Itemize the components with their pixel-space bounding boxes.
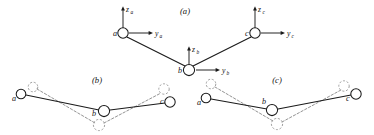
axis-z-a-subscript: a: [131, 9, 134, 15]
panel-c-ghost-bond-bc: [282, 90, 341, 122]
panel-a-caption: (a): [180, 6, 190, 16]
axis-z-a-arrowhead: [121, 6, 125, 10]
panel-b-ghost-bond-ab: [37, 89, 95, 123]
axis-y-a: y a: [129, 29, 162, 39]
panel-c-atom-a-label: a: [197, 98, 201, 107]
panel-a-atom-a: [118, 28, 128, 38]
axis-y-b: y b: [196, 66, 229, 76]
axis-z-b-subscript: b: [197, 49, 200, 55]
panel-c-atom-a: [201, 93, 211, 103]
panel-a-group: z a y a z b y b: [113, 5, 294, 76]
panel-b-bond-ab: [26, 95, 99, 110]
axis-y-c: y c: [261, 29, 294, 39]
panel-a-bond-ab: [127, 37, 185, 66]
panel-b-group: a b c (b): [12, 75, 175, 131]
axis-y-c-label: y: [286, 29, 291, 38]
panel-a-bond-bc: [193, 37, 251, 66]
axis-z-c-arrowhead: [253, 6, 257, 10]
axis-y-c-arrowhead: [281, 31, 285, 35]
panel-b-ghost-atom-b: [93, 119, 104, 130]
panel-c-atom-c: [351, 89, 361, 99]
axis-z-c-label: z: [257, 5, 261, 14]
panel-b-bond-bc: [110, 103, 165, 110]
panel-a-atom-c-label: c: [245, 29, 249, 38]
panel-c-atom-c-label: c: [346, 94, 350, 103]
panel-a-atom-b-label: b: [178, 66, 182, 75]
panel-b-ghost-atom-c: [159, 84, 169, 94]
panel-a-atom-c: [250, 28, 260, 38]
panel-b-ghost-atom-a: [28, 82, 38, 92]
axis-z-a: z a: [121, 5, 134, 28]
axis-y-c-subscript: c: [291, 33, 294, 39]
axis-y-a-subscript: a: [159, 33, 162, 39]
panel-c-atom-b: [266, 104, 277, 115]
panel-c-ghost-atom-b: [271, 118, 282, 129]
axis-y-a-label: y: [154, 29, 159, 38]
panel-b-atom-a-label: a: [12, 94, 16, 103]
panel-b-atom-a: [16, 89, 26, 99]
figure-canvas: z a y a z b y b: [0, 0, 374, 135]
panel-c-caption: (c): [272, 75, 282, 85]
panel-b-atom-b-label: b: [92, 109, 96, 118]
axis-y-a-arrowhead: [149, 31, 153, 35]
panel-b-ghost-bond-bc: [104, 93, 161, 123]
panel-c-bond-ab: [211, 99, 267, 109]
axis-z-c: z c: [253, 5, 266, 28]
panel-c-bond-bc: [278, 95, 351, 109]
axis-y-b-subscript: b: [226, 70, 229, 76]
figure-root: z a y a z b y b: [0, 0, 374, 135]
panel-b-atom-c-label: c: [160, 97, 164, 106]
panel-c-atom-b-label: b: [262, 97, 266, 106]
axis-z-b-label: z: [191, 45, 195, 54]
axis-z-c-subscript: c: [263, 9, 266, 15]
panel-a-atom-b: [183, 64, 194, 75]
axis-z-b-arrowhead: [187, 46, 191, 50]
axis-y-b-label: y: [221, 66, 226, 75]
panel-a-atom-a-label: a: [113, 29, 117, 38]
panel-b-atom-c: [165, 97, 175, 107]
panel-c-ghost-atom-a: [206, 79, 216, 89]
panel-c-ghost-atom-c: [339, 81, 349, 91]
panel-c-group: a b c (c): [197, 75, 361, 130]
axis-z-b: z b: [187, 45, 200, 64]
axis-z-a-label: z: [125, 5, 129, 14]
panel-b-atom-b: [98, 105, 109, 116]
panel-b-caption: (b): [92, 75, 102, 85]
axis-y-b-arrowhead: [216, 68, 220, 72]
